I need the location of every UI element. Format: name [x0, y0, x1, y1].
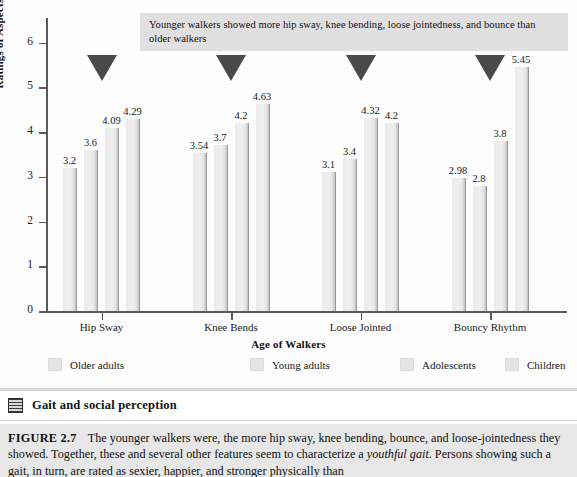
down-triangle-pointer-icon — [346, 55, 376, 81]
legend-item: Adolescents — [400, 358, 476, 371]
y-tick-2: 2 — [39, 222, 47, 224]
x-group-label: Bouncy Rhythm — [454, 321, 526, 333]
bar-value-label: 3.2 — [63, 155, 76, 166]
y-tick-label: 5 — [27, 79, 39, 91]
x-group-tick — [490, 313, 492, 320]
y-tick-label: 1 — [27, 258, 39, 270]
down-triangle-pointer-icon — [216, 55, 246, 81]
bar-value-label: 3.54 — [190, 140, 208, 151]
legend-swatch — [505, 358, 519, 371]
grid-thumbnail-icon — [8, 398, 23, 413]
y-tick-label: 3 — [27, 169, 39, 181]
y-tick-label: 2 — [27, 214, 39, 226]
bar: 3.2 — [63, 168, 77, 311]
y-tick-label: 6 — [27, 35, 39, 47]
y-axis-line — [46, 18, 48, 313]
bar-value-label: 3.6 — [84, 137, 97, 148]
y-tick-0: 0 — [39, 311, 47, 313]
figure-caption: FIGURE 2.7The younger walkers were, the … — [0, 424, 577, 477]
bar: 5.45 — [515, 67, 529, 311]
bar: 2.98 — [452, 178, 466, 311]
bar-value-label: 3.1 — [322, 159, 335, 170]
bar-value-label: 4.2 — [234, 110, 247, 121]
down-triangle-pointer-icon — [475, 55, 505, 81]
bar: 3.8 — [494, 141, 508, 311]
legend-item: Older adults — [48, 358, 124, 371]
bar-value-label: 4.32 — [361, 105, 379, 116]
legend-label: Adolescents — [422, 359, 476, 371]
x-group-tick — [361, 313, 363, 320]
legend-swatch — [48, 358, 62, 371]
y-tick-label: 4 — [27, 124, 39, 136]
x-group-label: Loose Jointed — [330, 321, 391, 333]
bar-value-label: 4.29 — [123, 106, 141, 117]
legend-item: Children — [505, 358, 566, 371]
bar: 3.6 — [84, 150, 98, 311]
section-banner: Gait and social perception — [0, 391, 577, 421]
bar: 3.4 — [343, 159, 357, 311]
bar: 4.29 — [126, 119, 140, 311]
figure-caption-italic: youthful gait — [367, 447, 429, 461]
bar-value-label: 2.98 — [449, 165, 467, 176]
banner-title: Gait and social perception — [32, 398, 177, 413]
bar-value-label: 5.45 — [512, 54, 530, 65]
bar: 2.8 — [473, 186, 487, 311]
x-group-tick — [102, 313, 104, 320]
figure-caption-label: FIGURE 2.7 — [8, 431, 77, 445]
legend-swatch — [250, 358, 264, 371]
bar: 4.09 — [105, 128, 119, 311]
bar-value-label: 4.63 — [253, 91, 271, 102]
bar-value-label: 3.7 — [213, 132, 226, 143]
legend-item: Young adults — [250, 358, 330, 371]
x-axis-title: Age of Walkers — [0, 338, 577, 350]
down-triangle-pointer-icon — [87, 55, 117, 81]
bar: 4.2 — [235, 123, 249, 311]
y-tick-3: 3 — [39, 177, 47, 179]
bar-value-label: 4.09 — [102, 115, 120, 126]
bar-value-label: 4.2 — [385, 110, 398, 121]
bar: 3.1 — [322, 172, 336, 311]
bar-value-label: 2.8 — [472, 173, 485, 184]
y-tick-label: 0 — [27, 303, 39, 315]
bar: 4.63 — [256, 104, 270, 311]
chart-legend: Older adultsYoung adultsAdolescentsChild… — [0, 358, 577, 380]
bar: 3.7 — [214, 145, 228, 311]
x-group-tick — [231, 313, 233, 320]
y-tick-5: 5 — [39, 87, 47, 89]
y-axis-title: Ratings of Aspects of Gait — [0, 0, 5, 120]
legend-label: Children — [527, 359, 566, 371]
figure-page: Younger walkers showed more hip sway, kn… — [0, 0, 577, 477]
bar: 4.32 — [364, 118, 378, 311]
y-tick-1: 1 — [39, 266, 47, 268]
x-group-label: Knee Bends — [204, 321, 257, 333]
bar-chart-plot: 0123456 Ratings of Aspects of Gait 3.23.… — [0, 0, 577, 340]
y-tick-4: 4 — [39, 132, 47, 134]
legend-label: Young adults — [272, 359, 330, 371]
bar: 4.2 — [385, 123, 399, 311]
bar-value-label: 3.8 — [493, 128, 506, 139]
bar-value-label: 3.4 — [343, 146, 356, 157]
bar: 3.54 — [193, 153, 207, 311]
legend-swatch — [400, 358, 414, 371]
y-tick-6: 6 — [39, 43, 47, 45]
x-group-label: Hip Sway — [80, 321, 124, 333]
chart-figure-panel: Younger walkers showed more hip sway, kn… — [0, 0, 577, 391]
x-axis-line — [46, 311, 567, 313]
legend-label: Older adults — [70, 359, 124, 371]
